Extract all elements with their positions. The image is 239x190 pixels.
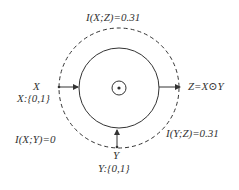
y-domain-label: Y:{0,1}: [98, 163, 130, 174]
mutual-info-xz-label: I(X;Z)=0.31: [86, 12, 140, 23]
y-node-dot: [116, 146, 119, 149]
x-domain-label: X:{0,1}: [17, 93, 50, 104]
y-variable-label: Y: [113, 150, 119, 161]
mutual-info-xy-label: I(X;Y)=0: [15, 134, 55, 145]
x-node-dot: [58, 86, 61, 89]
z-output-label: Z=X⊙Y: [188, 81, 224, 92]
x-variable-label: X: [33, 81, 40, 92]
mutual-info-yz-label: I(Y;Z)=0.31: [166, 128, 219, 139]
center-dot-icon: [117, 86, 120, 89]
